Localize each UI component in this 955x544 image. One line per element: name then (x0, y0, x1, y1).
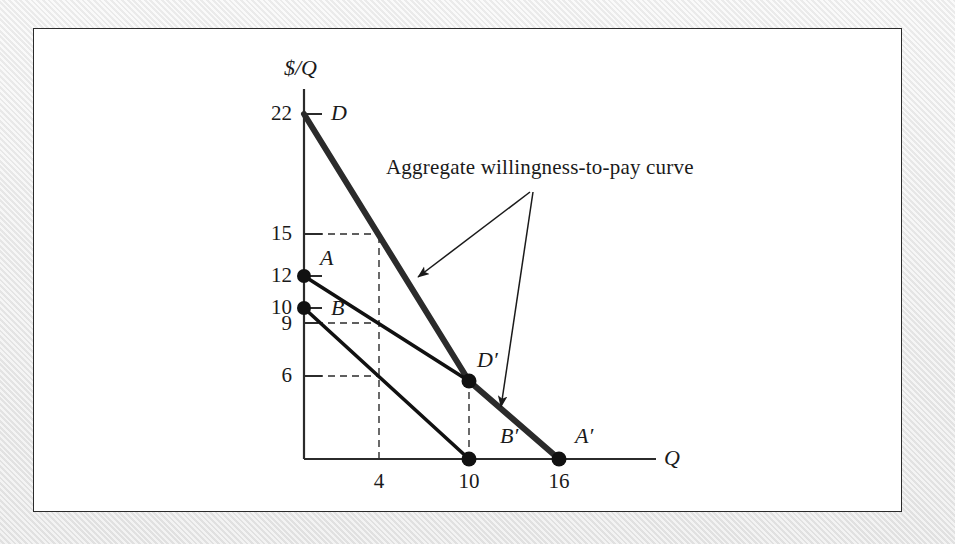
point-label-A: A (320, 247, 333, 269)
point-label-D: D (331, 102, 347, 124)
marker-D-prime (462, 374, 477, 389)
annotation-arrow-right (501, 192, 533, 407)
marker-B (297, 301, 311, 315)
y-tick-label-12: 12 (244, 265, 292, 286)
point-label-B-prime: B′ (500, 425, 518, 447)
annotation-arrow-left (418, 192, 530, 277)
point-label-A-prime: A′ (575, 425, 593, 447)
economics-plot (34, 29, 900, 510)
curve-individual-B (304, 308, 469, 459)
marker-A (297, 269, 311, 283)
point-label-B: B (331, 297, 344, 319)
figure-frame: $/Q Q 22 15 12 10 9 6 4 10 16 D A B D′ B… (33, 28, 902, 512)
annotation-leader-lines (418, 192, 533, 407)
x-axis-title: Q (664, 447, 680, 469)
x-tick-label-10: 10 (452, 471, 486, 492)
x-tick-label-4: 4 (365, 471, 393, 492)
figure-page: $/Q Q 22 15 12 10 9 6 4 10 16 D A B D′ B… (0, 0, 955, 544)
y-tick-label-15: 15 (244, 223, 292, 244)
axes (304, 89, 656, 459)
y-axis-title: $/Q (284, 57, 317, 79)
point-label-D-prime: D′ (477, 349, 498, 371)
y-tick-label-22: 22 (244, 103, 292, 124)
y-tick-label-9: 9 (244, 313, 292, 334)
marker-B-prime (462, 452, 477, 467)
marker-A-prime (552, 452, 567, 467)
x-tick-label-16: 16 (542, 471, 576, 492)
y-tick-label-6: 6 (244, 365, 292, 386)
annotation-label: Aggregate willingness-to-pay curve (386, 157, 694, 178)
